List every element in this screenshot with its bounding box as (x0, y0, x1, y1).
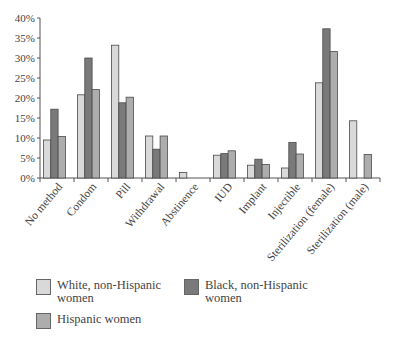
bar (262, 164, 269, 178)
legend-item-white: White, non-Hispanic women (36, 279, 172, 305)
bar (180, 172, 187, 178)
x-tick-label: IUD (212, 181, 234, 204)
legend-label-black: Black, non-Hispanic women (205, 279, 320, 305)
bar-chart: 0%5%10%15%20%25%30%35%40%No methodCondom… (0, 0, 393, 280)
x-tick-label: No method (22, 180, 64, 227)
y-tick-label: 5% (20, 152, 35, 164)
bar (282, 168, 289, 178)
bar (316, 83, 323, 178)
bar (85, 58, 92, 178)
legend-swatch-white (36, 279, 51, 295)
bar (78, 95, 85, 178)
bar (119, 103, 126, 178)
bar (58, 136, 65, 178)
bar (221, 154, 228, 178)
bar (44, 140, 51, 178)
bar (146, 136, 153, 178)
x-tick-label: Sterilization (male) (304, 180, 371, 257)
bar (330, 52, 337, 178)
y-tick-label: 35% (15, 32, 35, 44)
bar (289, 142, 296, 178)
y-tick-label: 20% (15, 92, 35, 104)
bar (160, 136, 167, 178)
bar (296, 154, 303, 178)
y-tick-label: 30% (15, 52, 35, 64)
x-tick-label: Condom (64, 181, 99, 219)
y-tick-label: 25% (15, 72, 35, 84)
bar (255, 159, 262, 178)
bar (153, 149, 160, 178)
bar (228, 151, 235, 178)
legend-swatch-black (184, 279, 199, 295)
bar (248, 165, 255, 178)
bar (126, 97, 133, 178)
bar (364, 154, 371, 178)
legend-label-hispanic: Hispanic women (57, 313, 257, 326)
bar (350, 121, 357, 178)
legend-label-white: White, non-Hispanic women (57, 279, 172, 305)
bar (323, 29, 330, 178)
bar (92, 90, 99, 178)
x-tick-label: Implant (236, 180, 269, 216)
bar (112, 45, 119, 178)
legend-item-black: Black, non-Hispanic women (184, 279, 320, 305)
bar (51, 109, 58, 178)
y-tick-label: 15% (15, 112, 35, 124)
x-tick-label: Pill (113, 181, 132, 201)
legend-item-hispanic: Hispanic women (36, 313, 257, 329)
y-tick-label: 40% (15, 12, 35, 24)
y-tick-label: 10% (15, 132, 35, 144)
y-tick-label: 0% (20, 172, 35, 184)
bar (214, 155, 221, 178)
legend-swatch-hispanic (36, 313, 51, 329)
